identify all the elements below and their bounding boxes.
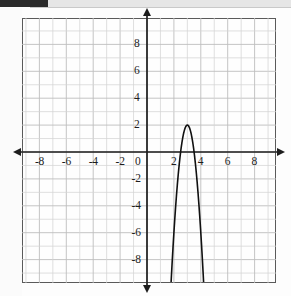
x-tick-label: -2 bbox=[116, 156, 125, 168]
scan-artifact-band bbox=[48, 0, 291, 7]
x-tick-label: 2 bbox=[171, 156, 177, 168]
scan-artifact-line bbox=[30, 7, 291, 8]
y-tick-label: -2 bbox=[132, 173, 141, 185]
x-axis-arrow-right bbox=[277, 148, 285, 156]
y-axis-arrow-top bbox=[143, 8, 151, 16]
x-tick-label: -8 bbox=[35, 156, 44, 168]
y-axis-arrow-bottom bbox=[143, 285, 151, 293]
y-tick-label: 2 bbox=[134, 119, 140, 131]
x-tick-label: 4 bbox=[198, 156, 204, 168]
y-tick-label: -8 bbox=[132, 254, 141, 266]
x-tick-label: 8 bbox=[252, 156, 258, 168]
x-tick-label: 6 bbox=[225, 156, 231, 168]
y-tick-label: 4 bbox=[134, 92, 140, 104]
x-tick-label: -4 bbox=[89, 156, 98, 168]
y-tick-label: -4 bbox=[132, 200, 141, 212]
origin-label: 0 bbox=[135, 156, 141, 168]
y-tick-label: -6 bbox=[132, 227, 141, 239]
parabola-curve bbox=[22, 18, 276, 283]
graph-page: -8-6-4-2246802468-2-4-6-8 bbox=[0, 0, 291, 296]
y-tick-label: 8 bbox=[134, 38, 140, 50]
x-tick-label: -6 bbox=[62, 156, 71, 168]
y-tick-label: 6 bbox=[134, 65, 140, 77]
scan-artifact-bar bbox=[0, 0, 48, 7]
parabola-path bbox=[171, 125, 204, 289]
